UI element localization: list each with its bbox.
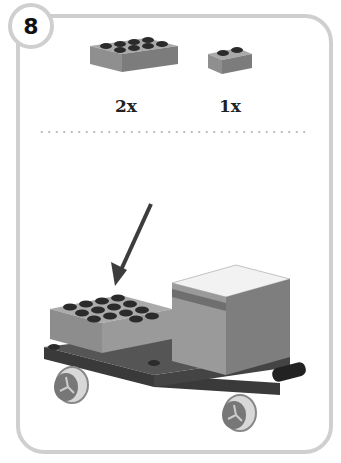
brick-2x4-icon <box>86 24 181 74</box>
step-number: 8 <box>23 14 38 39</box>
step-number-badge: 8 <box>8 3 54 49</box>
part-quantity-1x2: 1x <box>219 96 241 116</box>
brick-1x2-icon <box>206 40 256 75</box>
separator-dotted-line <box>38 131 310 133</box>
wheel-rear <box>222 395 256 431</box>
assembled-model-illustration <box>40 255 320 445</box>
wheel-front <box>54 367 88 403</box>
part-quantity-2x4: 2x <box>115 96 137 116</box>
